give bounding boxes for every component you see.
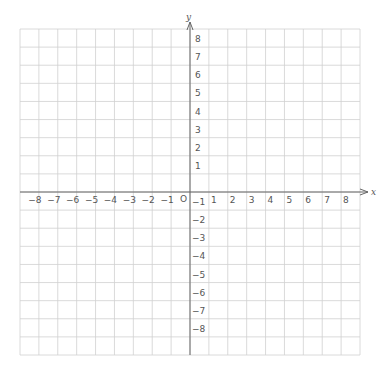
y-tick-label: 4 xyxy=(195,107,201,117)
x-tick-label: −1 xyxy=(160,195,173,205)
y-tick-label: 2 xyxy=(195,143,201,153)
x-tick-label: −8 xyxy=(28,195,42,205)
y-tick-label: −8 xyxy=(192,324,206,334)
y-tick-label: 1 xyxy=(195,161,201,171)
y-tick-label: −3 xyxy=(192,233,205,243)
origin-label: O xyxy=(180,194,187,204)
x-tick-label: −6 xyxy=(66,195,80,205)
y-tick-label: −2 xyxy=(192,215,205,225)
x-tick-label: −5 xyxy=(85,195,98,205)
x-axis-label: x xyxy=(371,187,376,197)
y-axis-label: y xyxy=(185,12,192,22)
coordinate-plane: x y O −8−7−6−5−4−3−2−112345678 87654321−… xyxy=(0,0,383,370)
x-tick-label: 2 xyxy=(230,195,236,205)
y-tick-label: 3 xyxy=(195,125,201,135)
x-tick-label: −7 xyxy=(47,195,60,205)
x-tick-labels: −8−7−6−5−4−3−2−112345678 xyxy=(28,195,349,205)
x-tick-label: 4 xyxy=(268,195,274,205)
x-tick-label: −2 xyxy=(142,195,155,205)
x-tick-label: 3 xyxy=(249,195,255,205)
y-tick-label: −5 xyxy=(192,270,205,280)
x-tick-label: 8 xyxy=(343,195,349,205)
x-tick-label: 1 xyxy=(211,195,217,205)
x-tick-label: 7 xyxy=(324,195,330,205)
x-tick-label: 6 xyxy=(305,195,311,205)
y-tick-label: 6 xyxy=(195,70,201,80)
x-tick-label: −3 xyxy=(123,195,136,205)
x-tick-label: 5 xyxy=(286,195,292,205)
y-tick-label: 8 xyxy=(195,34,201,44)
y-tick-labels: 87654321−1−2−3−4−5−6−7−8 xyxy=(192,34,206,334)
y-tick-label: −7 xyxy=(192,306,205,316)
axes: x y O xyxy=(20,12,376,355)
y-tick-label: −6 xyxy=(192,288,206,298)
y-tick-label: −1 xyxy=(192,197,205,207)
y-tick-label: 5 xyxy=(195,88,201,98)
x-tick-label: −4 xyxy=(104,195,118,205)
y-tick-label: 7 xyxy=(195,52,201,62)
y-tick-label: −4 xyxy=(192,251,206,261)
